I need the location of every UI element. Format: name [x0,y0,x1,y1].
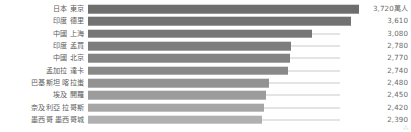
category-label: 墨西哥 墨西哥城 [0,116,88,124]
bar-row: 中國 北京2,770 [0,52,411,64]
bar-track [88,101,359,113]
value-number: 2,390 [387,115,408,124]
bar-row: 埃及 開羅2,450 [0,89,411,101]
bar [88,116,262,125]
value-label: 2,740 [359,67,411,75]
bar [88,29,312,38]
value-number: 2,450 [387,90,408,99]
bar-track [88,3,359,15]
bar-row: 中國 上海3,080 [0,28,411,40]
bar-track [88,40,359,52]
category-label: 印度 德里 [0,17,88,25]
bar-row: 印度 孟買2,780 [0,40,411,52]
value-number: 3,080 [387,29,408,38]
bar-row: 巴基斯坦 喀拉蚩2,480 [0,77,411,89]
bar-track [88,114,359,126]
bar-track [88,89,359,101]
bar-track [88,28,359,40]
value-label: 2,780 [359,42,411,50]
category-label: 日本 東京 [0,5,88,13]
value-number: 2,770 [387,53,408,62]
chart-rows: 日本 東京3,720萬人印度 德里3,610中國 上海3,080印度 孟買2,7… [0,3,411,126]
value-label: 2,390 [359,116,411,124]
value-label: 3,080 [359,30,411,38]
bar-chart: 日本 東京3,720萬人印度 德里3,610中國 上海3,080印度 孟買2,7… [0,0,411,132]
bar-track [88,77,359,89]
bar [88,42,291,51]
bar [88,91,266,100]
category-label: 中國 上海 [0,30,88,38]
category-label: 孟加拉 達卡 [0,67,88,75]
bar [88,103,264,112]
value-number: 3,610 [387,16,408,25]
value-label: 2,480 [359,79,411,87]
watermark: ⁂ [403,124,409,131]
category-label: 印度 孟買 [0,42,88,50]
category-label: 中國 北京 [0,54,88,62]
bar-track [88,64,359,76]
bar [88,5,359,14]
bar-track [88,15,359,27]
bar [88,66,288,75]
bar-row: 孟加拉 達卡2,740 [0,64,411,76]
category-label: 巴基斯坦 喀拉蚩 [0,79,88,87]
category-label: 埃及 開羅 [0,91,88,99]
bar-row: 奈及利亞 拉哥斯2,420 [0,101,411,113]
value-number: 2,740 [387,66,408,75]
value-label: 3,610 [359,17,411,25]
bar-track [88,52,359,64]
bar [88,54,290,63]
value-unit: 萬人 [394,4,408,13]
value-label: 2,450 [359,91,411,99]
value-number: 2,780 [387,41,408,50]
value-number: 2,480 [387,78,408,87]
category-label: 奈及利亞 拉哥斯 [0,104,88,112]
bar [88,79,269,88]
value-label: 2,420 [359,104,411,112]
bar [88,17,351,26]
value-label: 3,720萬人 [359,5,411,13]
bar-row: 印度 德里3,610 [0,15,411,27]
value-label: 2,770 [359,54,411,62]
value-number: 3,720 [373,4,394,13]
value-number: 2,420 [387,103,408,112]
bar-row: 日本 東京3,720萬人 [0,3,411,15]
bar-row: 墨西哥 墨西哥城2,390 [0,114,411,126]
